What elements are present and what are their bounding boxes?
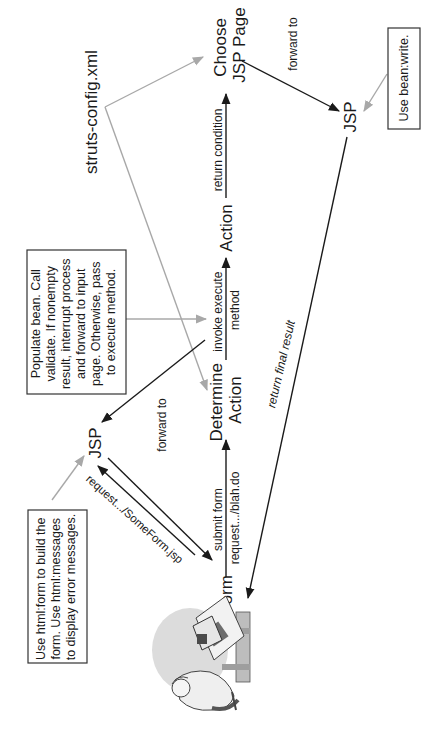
svg-text:Populate bean. Call vali: Populate bean. Call validate. If nonempt… bbox=[29, 255, 118, 389]
forward-to-input-label: forward to bbox=[155, 398, 169, 452]
return-final-result-label: return final result bbox=[264, 318, 298, 409]
struts-flow-diagram: struts-config.xml Choose JSP Page Action… bbox=[0, 0, 424, 736]
html-note-to-jsp-arrow bbox=[52, 456, 84, 500]
svg-text:Use html:form to build the: Use html:form to build the form. Use htm… bbox=[34, 514, 78, 661]
input-jsp-node: JSP bbox=[86, 427, 105, 458]
config-to-choose-jsp-arrow bbox=[105, 57, 203, 107]
populate-bean-note: Populate bean. Call validate. If nonempt… bbox=[27, 250, 126, 394]
request-jsp-arrow bbox=[98, 466, 195, 555]
bean-write-note: Use bean:write. bbox=[388, 28, 420, 129]
html-form-note: Use html:form to build the form. Use htm… bbox=[28, 510, 87, 663]
action-node: Action bbox=[217, 204, 236, 251]
svg-text:Use bean:write.: Use bean:write. bbox=[397, 35, 411, 122]
determine-action-node: Determine Action bbox=[207, 358, 245, 441]
return-final-result-arrow bbox=[248, 137, 347, 598]
return-condition-label: return condition bbox=[211, 109, 225, 192]
bean-note-to-jsp-arrow bbox=[364, 74, 387, 111]
forward-to-output-label: forward to bbox=[286, 17, 300, 71]
choose-jsp-node: Choose JSP Page bbox=[211, 7, 249, 82]
struts-config-label: struts-config.xml bbox=[82, 50, 101, 174]
output-jsp-node: JSP bbox=[341, 101, 360, 132]
